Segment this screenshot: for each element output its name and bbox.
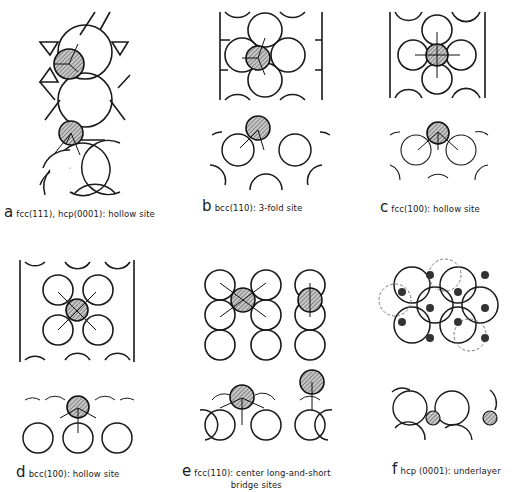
caption-text-e: fcc(110): center long-and-short <box>194 468 330 478</box>
caption-d: dbcc(100): hollow site <box>16 463 119 481</box>
panel-letter-f: f <box>392 460 397 478</box>
caption-text-a: fcc(111), hcp(0001): hollow site <box>16 209 155 219</box>
panel-letter-e: e <box>182 462 191 480</box>
caption-text-b: bcc(110): 3-fold site <box>215 203 303 213</box>
panel-b: bbcc(110): 3-fold site <box>170 0 340 240</box>
panel-e: efcc(110): center long-and-short bridge … <box>170 250 350 492</box>
panel-c: cfcc(100): hollow site <box>340 0 512 240</box>
caption-c: cfcc(100): hollow site <box>380 198 480 216</box>
fcc110-diagrams <box>170 250 350 492</box>
hcp0001-underlayer-diagrams <box>350 250 512 492</box>
caption-e: efcc(110): center long-and-short bridge … <box>182 462 331 490</box>
caption-text-c: fcc(100): hollow site <box>391 204 479 214</box>
panel-letter-d: d <box>16 463 26 481</box>
panel-letter-a: a <box>4 203 13 221</box>
caption-text-e-line2: bridge sites <box>182 480 331 490</box>
panel-letter-b: b <box>202 197 212 215</box>
caption-a: afcc(111), hcp(0001): hollow site <box>4 203 155 221</box>
panel-f: fhcp (0001): underlayer <box>350 250 512 492</box>
panel-d: dbcc(100): hollow site <box>0 250 170 492</box>
bcc100-diagrams <box>0 250 170 492</box>
caption-text-d: bcc(100): hollow site <box>29 469 120 479</box>
caption-text-f: hcp (0001): underlayer <box>400 466 500 476</box>
panel-letter-c: c <box>380 198 388 216</box>
caption-b: bbcc(110): 3-fold site <box>202 197 302 215</box>
caption-f: fhcp (0001): underlayer <box>392 460 501 478</box>
panel-a: afcc(111), hcp(0001): hollow site <box>0 0 170 240</box>
